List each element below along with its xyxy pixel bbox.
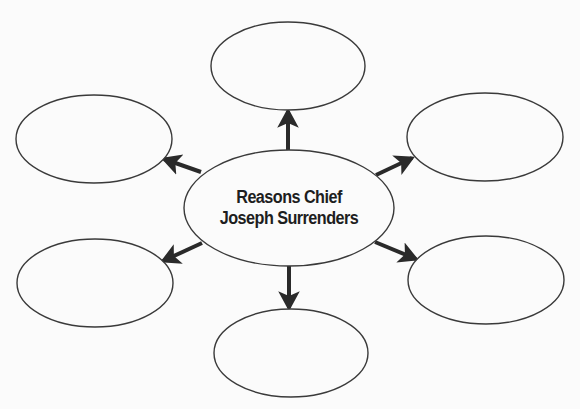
- arrow-to-lower-left: [163, 243, 202, 261]
- arrow-to-lower-right: [375, 242, 416, 259]
- oval-top-text[interactable]: [230, 35, 346, 97]
- oval-lower-right-text[interactable]: [428, 249, 545, 311]
- arrow-to-upper-left: [164, 159, 201, 172]
- oval-bottom-text[interactable]: [233, 322, 349, 384]
- center-oval: [184, 150, 394, 266]
- oval-lower-left-text[interactable]: [37, 252, 154, 314]
- oval-upper-left-text[interactable]: [36, 108, 153, 170]
- arrow-to-upper-right: [376, 158, 412, 175]
- center-oval-group: [184, 150, 394, 266]
- web-organizer-diagram: Reasons Chief Joseph Surrenders: [0, 0, 580, 409]
- oval-upper-right-text[interactable]: [427, 106, 544, 168]
